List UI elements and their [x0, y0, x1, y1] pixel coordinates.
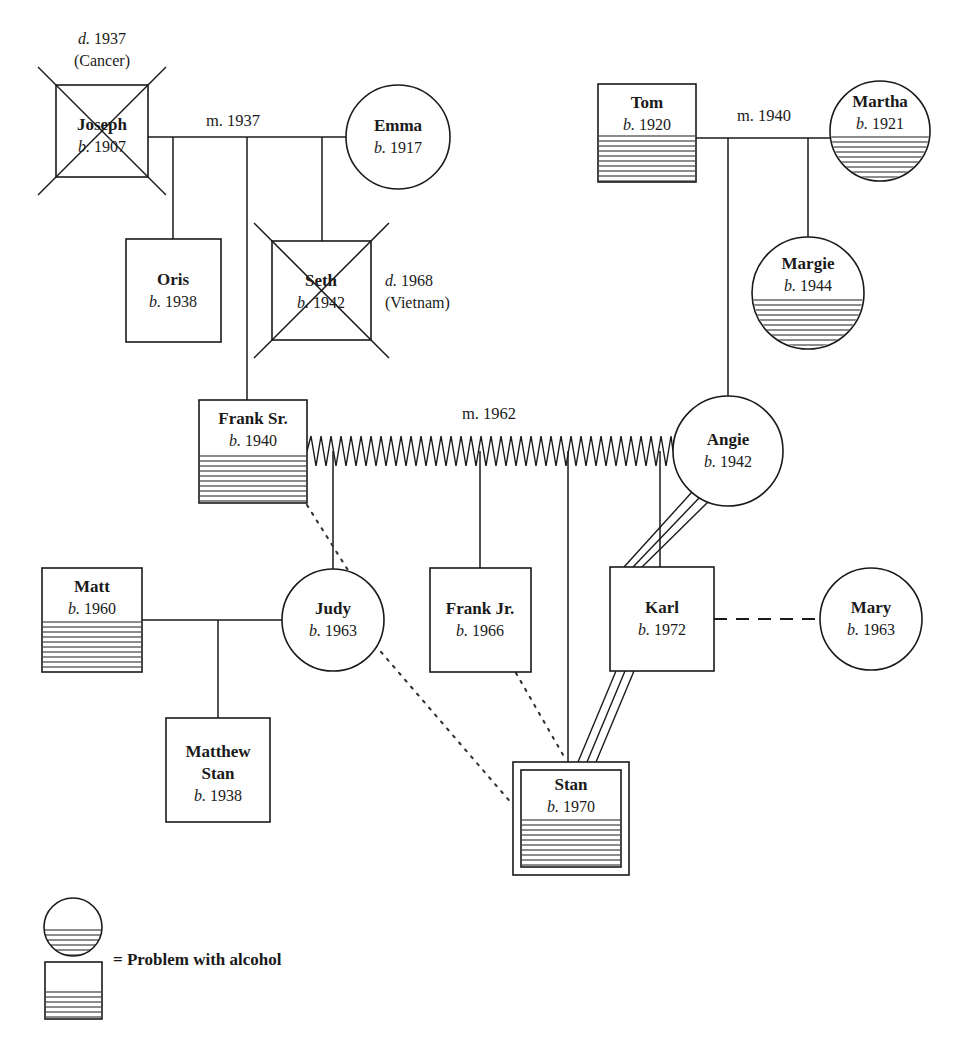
marriage-label-franksr-angie: m. 1962: [462, 404, 516, 423]
death-note-line2: (Vietnam): [385, 294, 450, 312]
person-birth: b. 1907: [78, 138, 126, 155]
person-name: Tom: [631, 93, 663, 112]
person-judy[interactable]: Judy b. 1963: [282, 569, 384, 671]
person-birth: b. 1938: [149, 293, 197, 310]
person-name: Angie: [707, 430, 750, 449]
person-birth: b. 1940: [229, 432, 277, 449]
marriage-line-matt-judy: [142, 620, 282, 718]
person-birth: b. 1970: [547, 798, 595, 815]
person-birth: b. 1942: [704, 453, 752, 470]
marriage-label-tom-martha: m. 1940: [737, 106, 791, 125]
person-emma[interactable]: Emma b. 1917: [346, 85, 450, 189]
genogram-svg: Joseph b. 1907 d. 1937 (Cancer) Emma b. …: [0, 0, 969, 1049]
relationship-fused-angie-karl: [624, 492, 708, 567]
person-birth: b. 1942: [297, 294, 345, 311]
person-tom[interactable]: Tom b. 1920: [598, 84, 696, 182]
person-stan[interactable]: Stan b. 1970: [513, 762, 629, 875]
person-oris[interactable]: Oris b. 1938: [126, 239, 221, 342]
person-birth: b. 1966: [456, 622, 504, 639]
person-birth: b. 1960: [68, 600, 116, 617]
person-name: Margie: [782, 254, 835, 273]
person-name: Judy: [315, 599, 351, 618]
person-name: Frank Jr.: [446, 599, 514, 618]
relationship-distant-frankjr-stan: [516, 673, 566, 760]
person-franksr[interactable]: Frank Sr. b. 1940: [199, 400, 307, 503]
death-note-line1: d. 1968: [385, 272, 433, 289]
person-seth[interactable]: Seth b. 1942 d. 1968 (Vietnam): [254, 223, 450, 358]
legend-label: = Problem with alcohol: [113, 950, 282, 969]
legend-square-symbol: [45, 962, 102, 1019]
person-birth: b. 1920: [623, 116, 671, 133]
person-name-line2: Stan: [201, 764, 235, 783]
person-matthew-stan[interactable]: Matthew Stan b. 1938: [166, 718, 270, 822]
person-name: Frank Sr.: [218, 409, 287, 428]
person-name: Martha: [852, 92, 908, 111]
person-birth: b. 1972: [638, 621, 686, 638]
person-birth: b. 1944: [784, 277, 832, 294]
person-margie[interactable]: Margie b. 1944: [750, 237, 866, 349]
person-birth: b. 1963: [847, 621, 895, 638]
person-name: Emma: [374, 116, 423, 135]
relationship-fused-karl-stan: [578, 671, 634, 762]
relationship-distant-franksr-judy: [307, 505, 351, 575]
person-name: Mary: [851, 598, 892, 617]
person-birth: b. 1917: [374, 139, 422, 156]
person-name: Karl: [645, 598, 679, 617]
legend: = Problem with alcohol: [42, 898, 282, 1019]
person-birth: b. 1921: [856, 115, 904, 132]
person-name: Seth: [305, 271, 338, 290]
marriage-label-joseph-emma: m. 1937: [206, 111, 260, 130]
person-angie[interactable]: Angie b. 1942: [673, 396, 783, 506]
person-karl[interactable]: Karl b. 1972: [610, 567, 714, 671]
person-name: Oris: [157, 270, 189, 289]
person-name-line1: Matthew: [185, 742, 251, 761]
genogram-canvas: Joseph b. 1907 d. 1937 (Cancer) Emma b. …: [0, 0, 969, 1049]
person-frankjr[interactable]: Frank Jr. b. 1966: [430, 568, 531, 672]
person-mary[interactable]: Mary b. 1963: [820, 568, 922, 670]
person-name: Stan: [554, 775, 588, 794]
death-note-line2: (Cancer): [74, 52, 130, 70]
person-birth: b. 1963: [309, 622, 357, 639]
person-name: Matt: [74, 577, 110, 596]
legend-circle-symbol: [44, 898, 102, 956]
person-matt[interactable]: Matt b. 1960: [42, 568, 142, 672]
person-name: Joseph: [77, 115, 128, 134]
person-birth: b. 1938: [194, 787, 242, 804]
death-note-line1: d. 1937: [78, 30, 126, 47]
person-martha[interactable]: Martha b. 1921: [828, 81, 932, 181]
person-joseph[interactable]: Joseph b. 1907 d. 1937 (Cancer): [38, 30, 166, 195]
